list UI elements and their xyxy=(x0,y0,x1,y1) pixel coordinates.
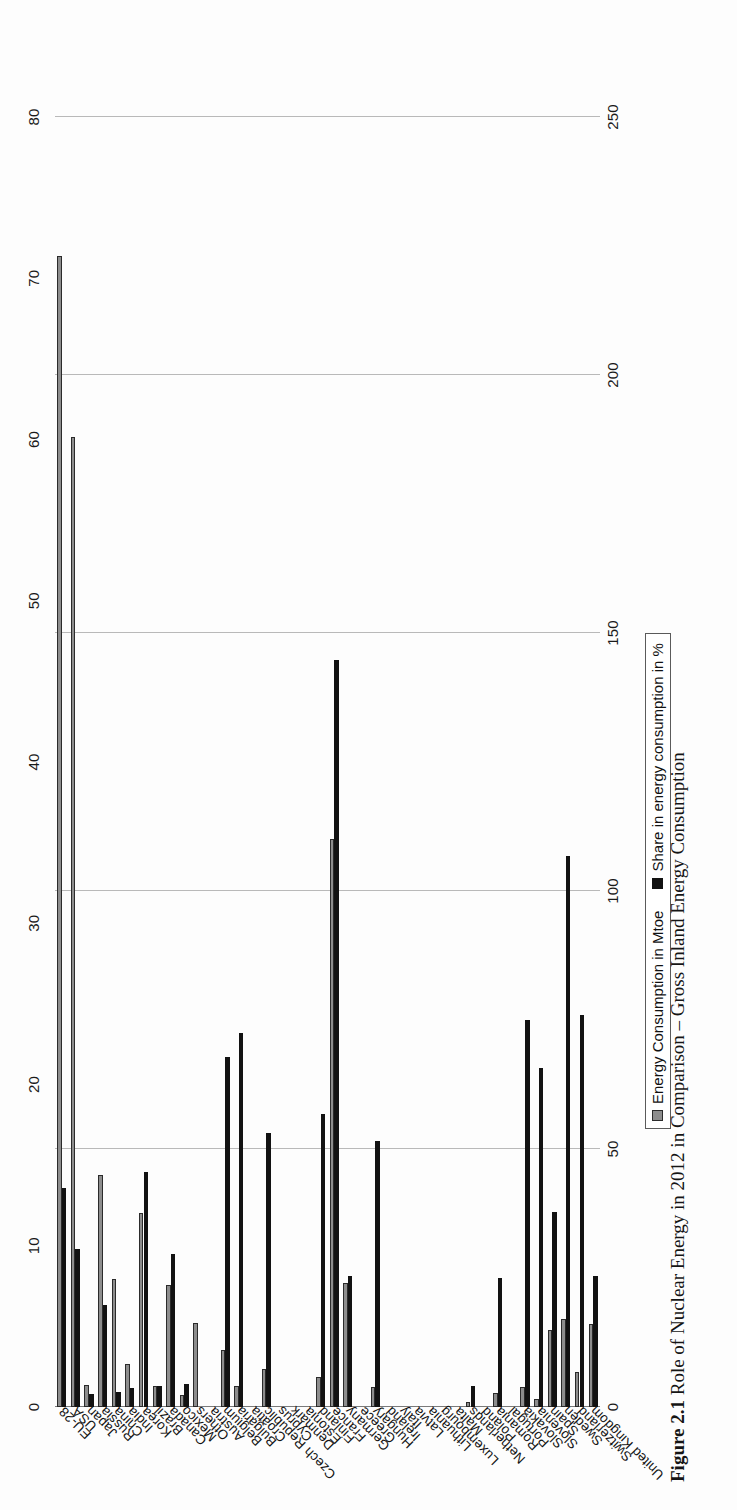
bar-energy-consumption-mtoe xyxy=(520,1387,524,1407)
bar-group xyxy=(477,117,491,1407)
primary-tick-label: 200 xyxy=(604,362,621,388)
bar-energy-consumption-mtoe xyxy=(57,256,61,1407)
bar-group xyxy=(177,117,191,1407)
bar-group xyxy=(164,117,178,1407)
bar-group xyxy=(559,117,573,1407)
bar-group xyxy=(382,117,396,1407)
bar-share-in-energy-consumption-percent xyxy=(143,1172,147,1407)
bar-group xyxy=(354,117,368,1407)
legend-swatch-icon xyxy=(652,1110,663,1121)
bar-share-in-energy-consumption-percent xyxy=(552,1212,556,1407)
bar-energy-consumption-mtoe xyxy=(70,437,74,1407)
bar-group xyxy=(95,117,109,1407)
secondary-tick-label: 50 xyxy=(25,592,42,609)
bar-group xyxy=(450,117,464,1407)
bar-group xyxy=(82,117,96,1407)
primary-tick-label: 150 xyxy=(604,620,621,646)
bar-energy-consumption-mtoe xyxy=(193,1323,197,1407)
legend-swatch-icon xyxy=(652,878,663,889)
caption-label: Figure 2.1 xyxy=(667,1400,688,1482)
rotated-figure-wrapper: 01020304050607080 EU-28USAJapanRussiaChi… xyxy=(19,29,719,1481)
bar-share-in-energy-consumption-percent xyxy=(538,1068,542,1407)
bar-share-in-energy-consumption-percent xyxy=(579,1015,583,1407)
bar-energy-consumption-mtoe xyxy=(547,1330,551,1407)
bar-share-in-energy-consumption-percent xyxy=(61,1188,65,1407)
bar-energy-consumption-mtoe xyxy=(574,1372,578,1407)
category-axis-labels: EU-28USAJapanRussiaChinaIndiaKoreaBrazil… xyxy=(55,1407,600,1481)
bar-energy-consumption-mtoe xyxy=(316,1377,320,1407)
bar-group xyxy=(586,117,600,1407)
bar-share-in-energy-consumption-percent xyxy=(525,1020,529,1407)
bar-energy-consumption-mtoe xyxy=(343,1283,347,1407)
bar-energy-consumption-mtoe xyxy=(220,1350,224,1407)
bar-group xyxy=(259,117,273,1407)
secondary-tick-label: 10 xyxy=(25,1237,42,1254)
bar-share-in-energy-consumption-percent xyxy=(565,856,569,1407)
primary-tick-label: 0 xyxy=(604,1403,621,1412)
bar-group xyxy=(572,117,586,1407)
bar-group xyxy=(150,117,164,1407)
secondary-tick-label: 60 xyxy=(25,431,42,448)
bar-energy-consumption-mtoe xyxy=(561,1319,565,1407)
primary-axis-ticks: 050100150200250 xyxy=(604,117,630,1407)
bar-group xyxy=(395,117,409,1407)
bar-energy-consumption-mtoe xyxy=(98,1175,102,1407)
bar-energy-consumption-mtoe xyxy=(111,1279,115,1407)
bar-group xyxy=(123,117,137,1407)
bar-group xyxy=(341,117,355,1407)
bar-energy-consumption-mtoe xyxy=(370,1387,374,1407)
bar-share-in-energy-consumption-percent xyxy=(75,1249,79,1407)
bar-group xyxy=(204,117,218,1407)
bar-group xyxy=(232,117,246,1407)
bar-energy-consumption-mtoe xyxy=(588,1324,592,1407)
primary-tick-label: 100 xyxy=(604,878,621,904)
bar-energy-consumption-mtoe xyxy=(166,1285,170,1407)
bar-share-in-energy-consumption-percent xyxy=(238,1033,242,1407)
bar-group xyxy=(409,117,423,1407)
bar-energy-consumption-mtoe xyxy=(234,1386,238,1407)
secondary-tick-label: 80 xyxy=(25,108,42,125)
bar-group xyxy=(218,117,232,1407)
bar-energy-consumption-mtoe xyxy=(152,1386,156,1407)
bar-share-in-energy-consumption-percent xyxy=(347,1276,351,1407)
bar-energy-consumption-mtoe xyxy=(138,1213,142,1407)
primary-tick-label: 250 xyxy=(604,104,621,130)
bar-group xyxy=(422,117,436,1407)
bar-group xyxy=(273,117,287,1407)
bar-group xyxy=(55,117,69,1407)
secondary-tick-label: 70 xyxy=(25,270,42,287)
bar-group xyxy=(463,117,477,1407)
bar-energy-consumption-mtoe xyxy=(84,1385,88,1407)
bar-group xyxy=(191,117,205,1407)
bar-chart-figure: 01020304050607080 EU-28USAJapanRussiaChi… xyxy=(19,29,719,1481)
bar-energy-consumption-mtoe xyxy=(125,1364,129,1407)
bar-group xyxy=(504,117,518,1407)
bar-group xyxy=(436,117,450,1407)
bar-energy-consumption-mtoe xyxy=(534,1399,538,1407)
bar-group xyxy=(545,117,559,1407)
bar-share-in-energy-consumption-percent xyxy=(320,1114,324,1407)
bar-group xyxy=(518,117,532,1407)
bar-energy-consumption-mtoe xyxy=(493,1393,497,1407)
bar-group xyxy=(245,117,259,1407)
bar-group xyxy=(109,117,123,1407)
figure-page: 01020304050607080 EU-28USAJapanRussiaChi… xyxy=(0,0,737,1510)
bar-group xyxy=(531,117,545,1407)
bar-group xyxy=(327,117,341,1407)
bar-share-in-energy-consumption-percent xyxy=(266,1133,270,1407)
bar-group xyxy=(491,117,505,1407)
legend-item: Share in energy consumption in % xyxy=(649,643,666,888)
bar-group xyxy=(68,117,82,1407)
bar-group xyxy=(136,117,150,1407)
bar-energy-consumption-mtoe xyxy=(329,839,333,1407)
caption-text: Role of Nuclear Energy in 2012 in Compar… xyxy=(667,752,688,1395)
legend-label: Share in energy consumption in % xyxy=(649,643,666,871)
legend-item: Energy Consumption in Mtoe xyxy=(649,911,666,1121)
bar-group xyxy=(286,117,300,1407)
primary-tick-label: 50 xyxy=(604,1140,621,1157)
secondary-tick-label: 20 xyxy=(25,1076,42,1093)
bar-share-in-energy-consumption-percent xyxy=(170,1254,174,1407)
secondary-tick-label: 0 xyxy=(25,1403,42,1412)
bar-share-in-energy-consumption-percent xyxy=(225,1057,229,1407)
bar-energy-consumption-mtoe xyxy=(179,1395,183,1407)
